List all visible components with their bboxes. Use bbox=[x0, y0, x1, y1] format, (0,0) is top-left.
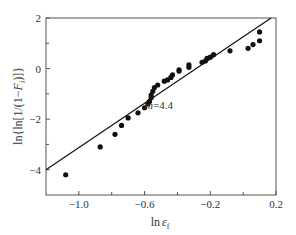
x-axis-title: lnεf bbox=[151, 215, 170, 231]
data-point bbox=[170, 72, 175, 77]
x-tick-label: −0.6 bbox=[135, 198, 155, 210]
x-tick-label: −0.2 bbox=[200, 198, 220, 210]
data-point bbox=[227, 48, 232, 53]
data-point bbox=[245, 46, 250, 51]
data-point bbox=[155, 82, 160, 87]
data-point bbox=[211, 52, 216, 57]
data-point bbox=[126, 115, 131, 120]
data-point bbox=[98, 144, 103, 149]
fit-line bbox=[46, 18, 271, 170]
data-point bbox=[176, 67, 181, 72]
data-point bbox=[63, 172, 68, 177]
data-point bbox=[135, 110, 140, 115]
data-point bbox=[257, 29, 262, 34]
y-tick-label: −4 bbox=[29, 164, 41, 176]
data-point bbox=[119, 123, 124, 128]
data-point bbox=[186, 62, 191, 67]
x-tick-label: −1.0 bbox=[69, 198, 89, 210]
y-tick-label: 2 bbox=[36, 12, 42, 24]
y-tick-label: 0 bbox=[36, 63, 42, 75]
data-point bbox=[112, 132, 117, 137]
slope-annotation: m=4.4 bbox=[145, 99, 173, 111]
y-axis-title: ln{ln[1/(1−Fi)]} bbox=[11, 67, 27, 145]
axis-tick-labels: −1.0−0.6−0.20.220−2−4 bbox=[29, 12, 283, 210]
weibull-plot: −1.0−0.6−0.20.220−2−4 m=4.4 lnεf ln{ln[1… bbox=[0, 0, 296, 235]
x-tick-label: 0.2 bbox=[269, 198, 283, 210]
y-tick-label: −2 bbox=[29, 113, 41, 125]
data-point bbox=[250, 42, 255, 47]
data-point bbox=[257, 38, 262, 43]
